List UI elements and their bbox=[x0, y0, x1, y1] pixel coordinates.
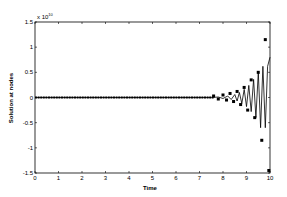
data-marker bbox=[267, 169, 270, 172]
data-marker bbox=[225, 99, 228, 102]
data-marker bbox=[212, 94, 215, 97]
data-marker bbox=[232, 100, 235, 103]
data-marker bbox=[253, 116, 256, 119]
y-exponent-label: x 1010 bbox=[37, 12, 54, 20]
chart: 012345678910 1.510.50-0.5-1-1.5 Time Sol… bbox=[0, 0, 287, 197]
x-tick-label: 6 bbox=[174, 175, 178, 181]
x-tick-label: 7 bbox=[198, 175, 202, 181]
data-marker bbox=[217, 98, 220, 101]
y-tick-label: 0.5 bbox=[25, 69, 34, 75]
x-axis-ticks: 012345678910 bbox=[33, 22, 274, 181]
data-marker bbox=[243, 86, 246, 89]
y-tick-label: 0 bbox=[30, 95, 34, 101]
x-tick-label: 3 bbox=[104, 175, 108, 181]
data-marker bbox=[236, 90, 239, 93]
y-tick-label: -1.5 bbox=[23, 170, 34, 176]
data-marker bbox=[264, 38, 267, 41]
x-tick-label: 4 bbox=[127, 175, 131, 181]
solution-line bbox=[35, 57, 270, 128]
data-marker bbox=[250, 78, 253, 81]
x-tick-label: 9 bbox=[245, 175, 249, 181]
data-marker bbox=[260, 139, 263, 142]
x-tick-label: 2 bbox=[80, 175, 84, 181]
x-tick-label: 5 bbox=[151, 175, 155, 181]
data-marker bbox=[239, 103, 242, 106]
x-tick-label: 8 bbox=[221, 175, 225, 181]
data-marker bbox=[222, 93, 225, 96]
x-axis-label: Time bbox=[143, 185, 158, 191]
series-line bbox=[35, 57, 270, 128]
y-tick-label: -1 bbox=[28, 145, 34, 151]
series-markers bbox=[35, 38, 270, 172]
data-marker bbox=[257, 71, 260, 74]
y-axis-label: Solution at nodes bbox=[8, 72, 14, 123]
data-marker bbox=[229, 92, 232, 95]
y-tick-label: 1.5 bbox=[25, 19, 34, 25]
y-tick-label: -0.5 bbox=[23, 120, 34, 126]
data-marker bbox=[246, 109, 249, 112]
x-tick-label: 1 bbox=[57, 175, 61, 181]
x-tick-label: 10 bbox=[267, 175, 274, 181]
x-tick-label: 0 bbox=[33, 175, 37, 181]
y-tick-label: 1 bbox=[30, 44, 34, 50]
